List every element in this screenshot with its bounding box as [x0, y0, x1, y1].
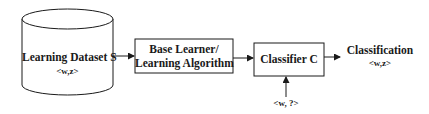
input-label: <w, ?>	[256, 98, 316, 109]
learner-label-line2: Learning Algorithm	[135, 57, 233, 70]
output-sublabel: <w,z>	[340, 58, 420, 69]
dataset-label: Learning Dataset S	[22, 51, 113, 64]
dataset-sublabel: <w,z>	[22, 66, 113, 77]
learner-label-line1: Base Learner/	[135, 43, 233, 56]
output-label: Classification	[340, 44, 420, 57]
classifier-label: Classifier C	[254, 53, 324, 66]
